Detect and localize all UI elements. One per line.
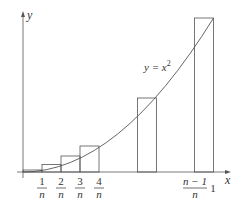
svg-text:n: n xyxy=(77,188,83,200)
rectangle-k xyxy=(138,98,157,172)
rectangle-n xyxy=(195,18,214,172)
tick-label-4: 4 n xyxy=(94,175,104,200)
tick-label-3: 3 n xyxy=(75,175,85,200)
tick-label-1: 1 n xyxy=(37,175,47,200)
y-axis-label: y xyxy=(26,8,33,22)
tick-label-2: 2 n xyxy=(56,175,66,200)
tick-label-one: 1 xyxy=(210,182,216,194)
svg-text:1: 1 xyxy=(39,175,45,187)
svg-text:4: 4 xyxy=(96,175,102,187)
curve-exponent: 2 xyxy=(167,59,171,68)
svg-text:3: 3 xyxy=(77,175,83,187)
tick-label-n-minus-1: n − 1 n xyxy=(183,175,207,200)
rectangle-3 xyxy=(61,156,80,172)
upper-sum-rectangles xyxy=(23,18,214,172)
riemann-sum-diagram: y x y = x2 1 n 2 n 3 n 4 n n − 1 n 1 xyxy=(0,0,243,211)
svg-text:n: n xyxy=(58,188,64,200)
curve-label: y = x2 xyxy=(143,59,171,73)
svg-text:2: 2 xyxy=(58,175,64,187)
svg-text:n: n xyxy=(39,188,45,200)
y-axis-arrow-icon xyxy=(21,11,25,17)
parabola-curve xyxy=(23,18,214,172)
svg-text:n: n xyxy=(192,188,198,200)
svg-text:n − 1: n − 1 xyxy=(183,175,207,187)
rectangle-4 xyxy=(80,146,99,172)
svg-text:n: n xyxy=(96,188,102,200)
x-axis-label: x xyxy=(224,173,231,187)
